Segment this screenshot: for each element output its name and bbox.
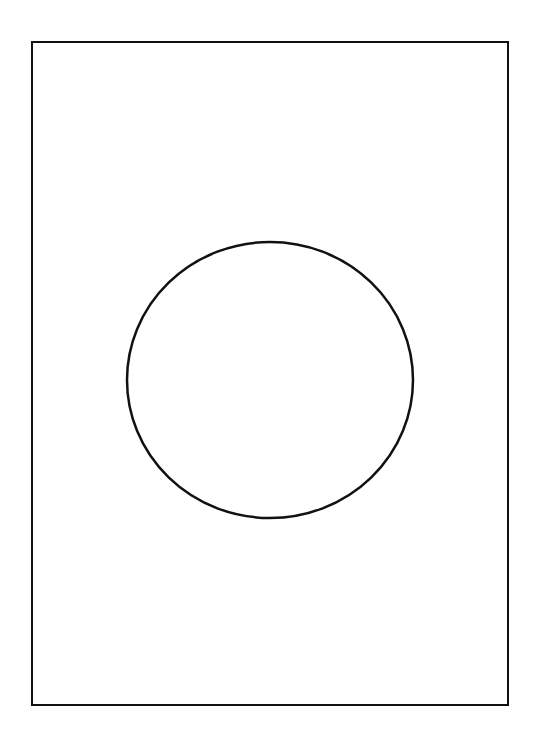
circle-shape bbox=[127, 242, 413, 518]
diagram-canvas bbox=[0, 0, 539, 744]
